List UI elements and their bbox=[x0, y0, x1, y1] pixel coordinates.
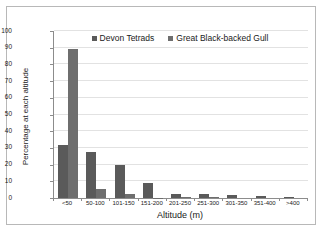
y-tick-mark bbox=[50, 31, 53, 32]
y-tick-label: 100 bbox=[0, 28, 12, 35]
y-tick-mark bbox=[50, 48, 53, 49]
legend-item-great-black-backed-gull: Great Black-backed Gull bbox=[168, 33, 268, 43]
x-axis-labels: <5050-100101-150151-200201-250251-300301… bbox=[53, 200, 307, 206]
x-tick-label: 151-200 bbox=[138, 200, 166, 206]
chart-figure: Percentage at each altitude 010203040506… bbox=[0, 0, 323, 232]
x-tick-label: 101-150 bbox=[109, 200, 137, 206]
y-tick-label: 90 bbox=[0, 44, 12, 51]
y-tick-label: 70 bbox=[0, 78, 12, 85]
bar-group bbox=[110, 31, 138, 198]
x-tick-label: 251-300 bbox=[194, 200, 222, 206]
y-tick-label: 50 bbox=[0, 111, 12, 118]
bar[interactable] bbox=[68, 49, 78, 198]
bar[interactable] bbox=[143, 183, 153, 198]
y-tick-label: 0 bbox=[0, 195, 12, 202]
x-tick-label: 301-350 bbox=[222, 200, 250, 206]
legend-label: Devon Tetrads bbox=[100, 33, 155, 43]
y-tick-label: 40 bbox=[0, 128, 12, 135]
y-tick-label: 10 bbox=[0, 178, 12, 185]
x-tick-mark bbox=[307, 198, 308, 201]
y-tick-label: 60 bbox=[0, 94, 12, 101]
bar[interactable] bbox=[115, 165, 125, 198]
y-tick-mark bbox=[50, 131, 53, 132]
y-tick-mark bbox=[50, 165, 53, 166]
y-tick-mark bbox=[50, 81, 53, 82]
y-tick-mark bbox=[50, 181, 53, 182]
bar-group bbox=[280, 31, 308, 198]
bar[interactable] bbox=[58, 145, 68, 198]
bar-group bbox=[54, 31, 82, 198]
bar[interactable] bbox=[96, 189, 106, 198]
y-axis-title: Percentage at each altitude bbox=[21, 47, 30, 187]
bar-series-container bbox=[54, 31, 308, 198]
chart-legend: Devon Tetrads Great Black-backed Gull bbox=[53, 33, 307, 43]
legend-swatch-icon bbox=[168, 36, 173, 41]
y-tick-mark bbox=[50, 98, 53, 99]
legend-swatch-icon bbox=[92, 36, 97, 41]
x-tick-label: 50-100 bbox=[81, 200, 109, 206]
y-tick-mark bbox=[50, 64, 53, 65]
bar-group bbox=[195, 31, 223, 198]
legend-label: Great Black-backed Gull bbox=[176, 33, 268, 43]
x-axis-title: Altitude (m) bbox=[53, 210, 307, 220]
x-tick-label: 351-400 bbox=[251, 200, 279, 206]
chart-frame: Percentage at each altitude 010203040506… bbox=[6, 6, 316, 225]
y-tick-mark bbox=[50, 148, 53, 149]
legend-item-devon-tetrads: Devon Tetrads bbox=[92, 33, 155, 43]
bar[interactable] bbox=[86, 152, 96, 198]
bar-group bbox=[252, 31, 280, 198]
y-tick-label: 30 bbox=[0, 144, 12, 151]
bar-group bbox=[139, 31, 167, 198]
y-tick-label: 20 bbox=[0, 161, 12, 168]
bar-group bbox=[167, 31, 195, 198]
x-tick-label: <50 bbox=[53, 200, 81, 206]
bar-group bbox=[82, 31, 110, 198]
x-tick-label: >400 bbox=[279, 200, 307, 206]
bar-group bbox=[223, 31, 251, 198]
y-tick-mark bbox=[50, 115, 53, 116]
plot-area bbox=[53, 31, 308, 199]
x-tick-label: 201-250 bbox=[166, 200, 194, 206]
y-tick-label: 80 bbox=[0, 61, 12, 68]
